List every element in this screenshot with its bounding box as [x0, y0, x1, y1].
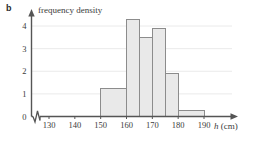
bars-group	[101, 19, 204, 116]
histogram-bar	[152, 28, 165, 116]
histogram-bar	[127, 19, 140, 116]
x-tick-label: 130	[43, 120, 56, 130]
y-tick-labels-group: 01234	[22, 21, 27, 122]
y-tick-label: 2	[22, 66, 26, 76]
histogram-bar	[101, 88, 127, 116]
y-tick-label: 0	[22, 112, 26, 122]
x-axis-arrowhead	[231, 113, 239, 119]
histogram-bar	[165, 74, 178, 117]
y-tick-label: 1	[22, 89, 26, 99]
y-axis-arrowhead	[28, 9, 34, 17]
x-axis-title-unit: (cm)	[221, 121, 238, 131]
x-axis-title: h (cm)	[214, 121, 238, 131]
histogram-bar	[139, 37, 152, 116]
x-tick-label: 160	[120, 120, 133, 130]
y-axis-title: frequency density	[38, 5, 102, 15]
y-tick-label: 3	[22, 44, 26, 54]
histogram-bar	[178, 111, 204, 117]
x-tick-label: 140	[68, 120, 81, 130]
x-axis-title-variable: h	[214, 121, 219, 131]
part-label: b	[6, 3, 12, 13]
x-tick-label: 180	[172, 120, 185, 130]
x-tick-label: 170	[146, 120, 159, 130]
x-tick-labels-group: 130140150160170180190	[43, 120, 211, 130]
histogram-figure: b frequency density h (cm) 01234 1301401…	[0, 0, 254, 144]
axis-break-zigzag-icon	[33, 111, 40, 122]
x-tick-label: 190	[198, 120, 211, 130]
y-tick-label: 4	[22, 21, 27, 31]
x-tick-label: 150	[94, 120, 107, 130]
